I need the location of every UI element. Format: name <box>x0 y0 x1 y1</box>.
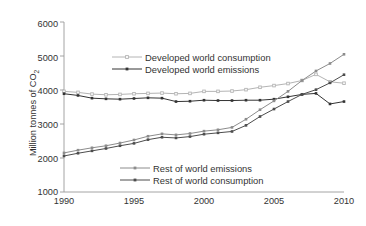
series-1 <box>63 73 346 96</box>
plot-canvas <box>0 0 366 226</box>
co2-line-chart: Million tonnes of CO2 6000 5000 4000 300… <box>0 0 366 226</box>
axis-lines <box>64 22 344 192</box>
y-tick-marks <box>60 22 64 192</box>
series-layer <box>63 53 346 157</box>
series-3 <box>63 53 346 154</box>
legend-markers <box>112 56 150 182</box>
